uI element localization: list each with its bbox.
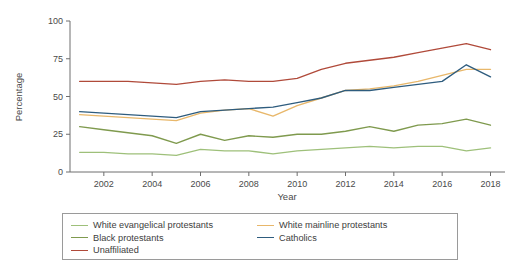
legend-items-grid: White evangelical protestantsWhite mainl… [71,219,449,257]
y-tick-label: 100 [48,16,63,26]
x-axis-title: Year [277,191,296,202]
legend-item[interactable]: Unaffiliated [71,244,245,257]
legend-item[interactable]: Black protestants [71,232,245,245]
x-tick-label: 2014 [384,179,404,189]
x-tick-label: 2016 [432,179,452,189]
series-line-white-evangelical-protestants [80,146,491,155]
chart-legend: White evangelical protestantsWhite mainl… [62,213,458,260]
y-axis-title: Percentage [13,73,24,122]
chart-figure: 0255075100 20022004200620082010201220142… [0,0,515,269]
legend-item-label: White evangelical protestants [93,219,213,232]
x-axis: 200220042006200820102012201420162018 [70,172,505,189]
x-tick-label: 2004 [142,179,162,189]
series-line-white-mainline-protestants [80,69,491,120]
series-lines [80,44,491,156]
legend-color-swatch-icon [257,225,274,226]
legend-item-label: White mainline protestants [279,219,387,232]
legend-spacer [257,244,449,257]
x-tick-label: 2018 [480,179,500,189]
y-axis: 0255075100 [48,16,70,177]
x-tick-label: 2012 [335,179,355,189]
x-tick-label: 2008 [239,179,259,189]
legend-item-label: Catholics [279,232,317,245]
y-tick-label: 0 [58,167,63,177]
series-line-black-protestants [80,119,491,143]
x-tick-label: 2006 [190,179,210,189]
y-tick-label: 50 [53,92,63,102]
legend-item[interactable]: White mainline protestants [257,219,449,232]
x-tick-label: 2002 [94,179,114,189]
legend-color-swatch-icon [71,250,88,251]
legend-item[interactable]: White evangelical protestants [71,219,245,232]
legend-color-swatch-icon [71,237,88,238]
series-line-catholics [80,65,491,118]
legend-item-label: Black protestants [93,232,163,245]
legend-color-swatch-icon [71,225,88,226]
x-tick-label: 2010 [287,179,307,189]
legend-item-label: Unaffiliated [93,244,139,257]
legend-item[interactable]: Catholics [257,232,449,245]
y-tick-label: 75 [53,54,63,64]
legend-color-swatch-icon [257,237,274,238]
y-tick-label: 25 [53,129,63,139]
